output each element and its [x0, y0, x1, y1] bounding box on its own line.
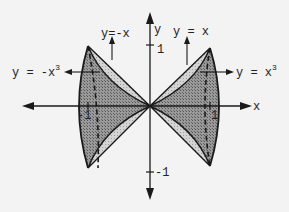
- axes: [22, 12, 252, 200]
- x-axis-arrow-left-icon: [22, 102, 34, 110]
- x-tick-neg-label: -1: [77, 109, 91, 123]
- left-lobe-dark-region: [79, 46, 150, 168]
- right-lobe-dark-region: [150, 48, 219, 166]
- diagram-svg: x y 1 -1 1 -1 y=-x y = x y = x3 y = -x3: [0, 0, 289, 212]
- y-axis-arrow-up-icon: [146, 12, 154, 24]
- left-lobe: [79, 46, 150, 168]
- callout-arrow-left-icon: [64, 69, 72, 75]
- svg-text:y = x: y = x: [173, 25, 209, 39]
- x-axis-label: x: [253, 100, 260, 114]
- y-tick-neg-label: -1: [155, 166, 169, 180]
- svg-text:y = x3: y = x3: [236, 63, 277, 80]
- label-y-eq-neg-x: y=-x: [101, 27, 130, 60]
- y-axis-label: y: [154, 23, 161, 37]
- svg-text:y = -x3: y = -x3: [12, 63, 60, 80]
- y-tick-pos-label: 1: [157, 43, 164, 57]
- diagram-canvas: x y 1 -1 1 -1 y=-x y = x y = x3 y = -x3: [0, 0, 289, 212]
- x-tick-pos-label: 1: [211, 109, 218, 123]
- right-lobe: [150, 48, 219, 166]
- x-axis-arrow-right-icon: [240, 102, 252, 110]
- y-axis-arrow-down-icon: [146, 188, 154, 200]
- svg-text:y=-x: y=-x: [101, 27, 130, 41]
- callout-arrow-right-icon: [226, 69, 234, 75]
